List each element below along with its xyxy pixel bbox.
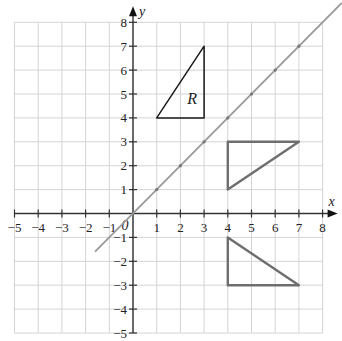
- shape-label-R: R: [186, 90, 197, 107]
- x-tick-label: −3: [55, 220, 69, 235]
- line-point-marker: [203, 140, 206, 143]
- x-axis-arrow-icon: [328, 210, 338, 218]
- x-tick-label: 7: [296, 220, 303, 235]
- y-tick-label: −3: [113, 278, 127, 293]
- x-tick-label: 5: [248, 220, 255, 235]
- y-tick-label: 2: [121, 158, 128, 173]
- y-tick-label: 3: [121, 134, 128, 149]
- y-tick-label: 4: [121, 110, 128, 125]
- line-point-marker: [226, 116, 229, 119]
- y-tick-label: 1: [121, 182, 128, 197]
- y-axis-label: y: [137, 4, 146, 19]
- y-tick-label: −5: [113, 326, 127, 341]
- x-tick-label: −2: [79, 220, 93, 235]
- line-point-marker: [155, 188, 158, 191]
- coordinate-grid-chart: xy −5−4−3−2−1123456780−5−4−3−2−112345678…: [0, 0, 342, 341]
- y-tick-label: 6: [121, 63, 128, 78]
- tick-labels: −5−4−3−2−1123456780−5−4−3−2−112345678: [8, 15, 326, 341]
- line-point-marker: [274, 69, 277, 72]
- y-axis-arrow-icon: [129, 6, 137, 16]
- y-tick-label: 5: [121, 87, 128, 102]
- y-tick-label: 8: [121, 15, 128, 30]
- line-y-equals-x: [95, 3, 341, 252]
- x-tick-label: 1: [153, 220, 160, 235]
- y-tick-label: −2: [113, 254, 127, 269]
- mirror-line-y-equals-x: [95, 3, 341, 252]
- y-tick-label: 7: [121, 39, 128, 54]
- x-tick-label: 6: [272, 220, 279, 235]
- x-tick-label: 3: [201, 220, 208, 235]
- y-tick-label: −4: [113, 302, 127, 317]
- x-axis-label: x: [328, 194, 336, 209]
- line-point-marker: [297, 45, 300, 48]
- x-tick-label: 8: [319, 220, 326, 235]
- x-tick-label: −5: [8, 220, 22, 235]
- line-point-marker: [250, 92, 253, 95]
- x-tick-label: −4: [31, 220, 45, 235]
- x-tick-label: 4: [225, 220, 232, 235]
- axes: xy: [15, 4, 338, 333]
- x-tick-label: 2: [177, 220, 184, 235]
- line-point-marker: [179, 164, 182, 167]
